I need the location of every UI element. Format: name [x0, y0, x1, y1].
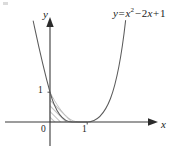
equation-plus: +: [153, 7, 160, 19]
parabola-figure: y x 1 0 1 y=x2−2x+1: [0, 0, 193, 149]
x-axis-tick-label-1: 1: [82, 125, 87, 135]
x-axis-label: x: [161, 119, 166, 130]
equation-minus: −: [134, 7, 141, 19]
x-axis-arrowhead-icon: [148, 118, 158, 126]
origin-label: 0: [41, 125, 46, 135]
y-axis-tick-label-1: 1: [38, 86, 43, 96]
equation-constant: 1: [160, 7, 166, 19]
y-axis-label: y: [43, 9, 48, 20]
equation-linear-var: x: [147, 7, 152, 19]
parabola-curve: [33, 21, 125, 123]
equation-annotation: y=x2−2x+1: [113, 8, 166, 19]
equation-equals: =: [118, 7, 125, 19]
